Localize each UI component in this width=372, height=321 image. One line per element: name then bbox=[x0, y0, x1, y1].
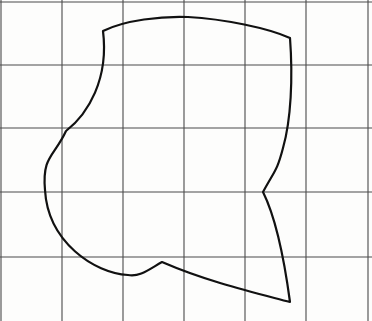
drawing-svg bbox=[0, 0, 372, 321]
figure-canvas bbox=[0, 0, 372, 321]
canvas-background bbox=[0, 0, 372, 321]
